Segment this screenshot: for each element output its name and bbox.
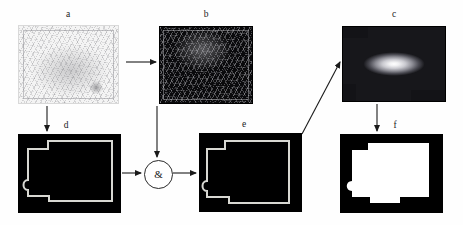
panel-label-f: f [375, 120, 415, 130]
panel-b-edge-image [159, 26, 253, 104]
panel-f-mask-graphic [340, 134, 443, 213]
panel-c-notch-bottom-right [411, 90, 445, 101]
panel-a-scanned-map [18, 25, 119, 104]
and-gate-symbol: & [154, 169, 163, 180]
panel-e-background [199, 133, 302, 212]
panel-f-inverted-mask [340, 134, 443, 213]
panel-b-inner-frame [163, 30, 249, 100]
panel-label-a: a [48, 9, 88, 19]
panel-label-d: d [46, 120, 86, 130]
panel-d-mask-graphic [18, 134, 121, 213]
panel-c-notch-bottom-left [343, 84, 356, 101]
panel-label-e: e [224, 119, 264, 129]
figure-canvas: a b c d & e f [0, 0, 463, 225]
panel-e-binary-mask [199, 133, 302, 212]
panel-d-binary-mask [18, 134, 121, 213]
panel-e-mask-graphic [199, 133, 302, 212]
panel-c-distance-transform [342, 26, 446, 102]
logical-and-gate: & [144, 160, 173, 189]
panel-a-inner-frame [23, 30, 114, 99]
panel-label-b: b [186, 9, 226, 19]
panel-label-c: c [374, 9, 414, 19]
arrow-e-to-c [302, 62, 340, 134]
panel-c-notch-top-left [343, 27, 368, 38]
panel-f-region [347, 143, 429, 203]
